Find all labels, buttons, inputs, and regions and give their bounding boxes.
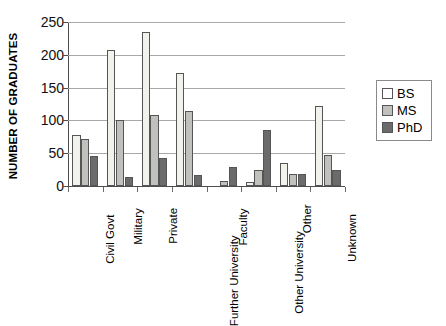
bar-group (211, 22, 237, 186)
legend: BSMSPhD (376, 80, 432, 141)
bar (332, 170, 340, 186)
x-axis-category-label: Faculty (236, 209, 248, 246)
y-axis-tick-mark (63, 55, 68, 56)
y-axis-tick-label: 0 (28, 179, 64, 193)
bar (81, 139, 89, 186)
bar (194, 175, 202, 186)
bar (220, 181, 228, 186)
bar-group (176, 22, 202, 186)
legend-item: BS (382, 85, 427, 102)
x-axis-category-label: Civil Govt (104, 215, 116, 264)
x-axis-category-label: Military (132, 208, 144, 244)
legend-item: MS (382, 102, 427, 119)
legend-label: PhD (397, 121, 422, 134)
x-axis-category-labels: Civil GovtMilitaryPrivateFurther Univers… (68, 190, 345, 322)
y-axis-tick-label: 150 (28, 81, 64, 95)
legend-swatch-icon (382, 105, 393, 116)
bar-group (142, 22, 168, 186)
x-axis-tick-mark (345, 187, 346, 192)
y-axis-tick-label: 200 (28, 48, 64, 62)
bar (72, 135, 80, 186)
y-axis-tick-label: 250 (28, 15, 64, 29)
x-axis-category-label: Further University (229, 235, 241, 326)
y-axis-line (68, 22, 69, 187)
y-axis-tick-label: 50 (28, 146, 64, 160)
x-axis-category-label: Private (166, 208, 178, 244)
bar-group (315, 22, 341, 186)
y-axis-tick-mark (63, 88, 68, 89)
bar (116, 120, 124, 186)
y-axis-tick-label: 100 (28, 113, 64, 127)
bar (298, 174, 306, 186)
bar (289, 174, 297, 186)
bar (324, 155, 332, 186)
legend-label: BS (397, 87, 414, 100)
bar (263, 130, 271, 186)
bar (185, 111, 193, 186)
bar (159, 158, 167, 186)
y-axis-tick-mark (63, 120, 68, 121)
bar-group (246, 22, 272, 186)
bar (125, 177, 133, 186)
bar-group (107, 22, 133, 186)
bar (280, 163, 288, 186)
legend-label: MS (397, 104, 417, 117)
bar (150, 115, 158, 187)
bar (176, 73, 184, 186)
x-axis-category-label: Unknown (346, 214, 358, 262)
legend-swatch-icon (382, 122, 393, 133)
bar (315, 106, 323, 186)
legend-swatch-icon (382, 88, 393, 99)
y-axis-tick-mark (63, 22, 68, 23)
y-axis-tick-labels: 250200150100500 (24, 0, 64, 324)
bar (107, 50, 115, 186)
bar-group (280, 22, 306, 186)
legend-item: PhD (382, 119, 427, 136)
bar (90, 156, 98, 186)
y-axis-title: NUMBER OF GRADUATES (2, 18, 24, 194)
x-axis-category-label: Other University (294, 231, 306, 313)
y-axis-tick-mark (63, 153, 68, 154)
bar (229, 167, 237, 186)
bar-group (72, 22, 98, 186)
plot-area (68, 22, 345, 187)
x-axis-category-label: Other (301, 204, 313, 233)
bar (254, 170, 262, 186)
bar (142, 32, 150, 186)
bar (246, 182, 254, 186)
